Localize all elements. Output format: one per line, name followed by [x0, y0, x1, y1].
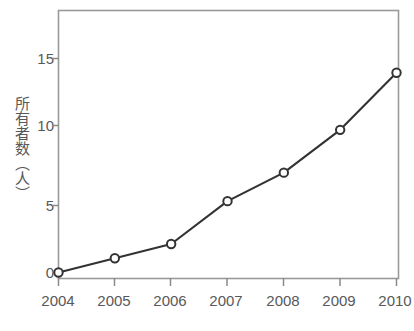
- data-point-2010: [392, 69, 400, 77]
- data-point-2007: [223, 197, 231, 205]
- data-point-markers: [54, 69, 400, 277]
- data-point-2008: [280, 168, 288, 176]
- data-point-2006: [167, 240, 175, 248]
- plot-svg: [0, 0, 414, 331]
- line-chart: 所有者数（人） 15 10 5 0 2004 2005 2006 2007 20…: [0, 0, 414, 331]
- data-point-2009: [336, 126, 344, 134]
- data-point-2004: [54, 268, 62, 276]
- plot-frame: [59, 11, 399, 279]
- data-line-series-1: [59, 73, 397, 273]
- data-point-2005: [111, 254, 119, 262]
- y-axis-ticks: [52, 59, 59, 273]
